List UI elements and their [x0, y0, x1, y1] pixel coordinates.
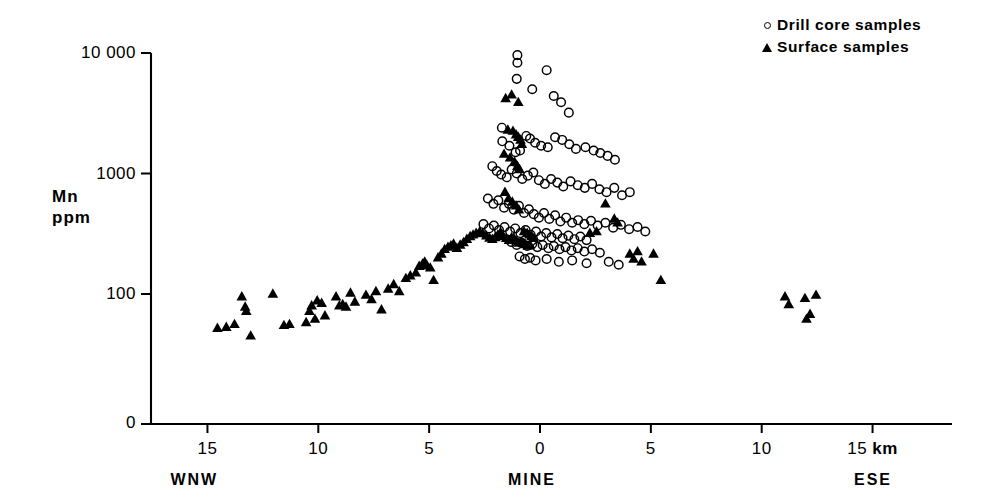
- open-circle-icon: [757, 22, 777, 29]
- data-point-surface-sample: [600, 198, 611, 207]
- y-tick-label-10000: 10 000: [0, 44, 136, 61]
- data-point-drill-core: [484, 194, 493, 203]
- y-axis-label: Mn ppm: [52, 186, 91, 229]
- data-point-surface-sample: [376, 304, 387, 313]
- direction-label-ese: ESE: [854, 471, 892, 489]
- x-tick-label-1: 10: [278, 440, 358, 457]
- data-point-drill-core: [601, 218, 610, 227]
- data-point-drill-core: [625, 225, 634, 234]
- direction-label-mine: MINE: [508, 471, 556, 489]
- data-point-drill-core: [568, 256, 577, 265]
- data-point-drill-core: [614, 260, 623, 269]
- data-point-surface-sample: [371, 286, 382, 295]
- data-point-surface-sample: [428, 275, 439, 284]
- x-tick-label-6: 15 km: [833, 440, 913, 457]
- figure-container: Mn ppm Drill core samples Surface sample…: [0, 0, 985, 500]
- y-axis-ticks: [141, 53, 151, 424]
- data-point-surface-sample: [229, 319, 240, 328]
- x-tick-label-4: 5: [611, 440, 691, 457]
- data-point-drill-core: [557, 98, 566, 107]
- scatter-plot-canvas: [0, 0, 985, 500]
- data-point-drill-core: [549, 92, 558, 101]
- y-tick-label-1000: 1000: [0, 165, 136, 182]
- data-point-surface-sample: [221, 322, 232, 331]
- data-point-drill-core: [565, 108, 574, 117]
- data-point-surface-sample: [245, 330, 256, 339]
- data-point-surface-sample: [632, 246, 643, 255]
- data-point-surface-sample: [636, 256, 647, 265]
- data-point-surface-sample: [805, 309, 816, 318]
- data-point-drill-core: [542, 66, 551, 75]
- legend-item-drill-core: Drill core samples: [757, 14, 977, 36]
- x-tick-label-5: 10: [722, 440, 802, 457]
- data-point-drill-core: [528, 85, 537, 94]
- data-point-surface-sample: [331, 291, 342, 300]
- y-axis-label-line1: Mn: [52, 186, 91, 207]
- data-point-surface-sample: [237, 291, 248, 300]
- data-point-drill-core: [625, 188, 634, 197]
- data-point-drill-core: [604, 258, 613, 267]
- legend-item-surface: Surface samples: [757, 36, 977, 58]
- axis-lines: [151, 53, 952, 424]
- legend-label-drill-core: Drill core samples: [777, 17, 921, 33]
- x-axis-ticks: [207, 424, 872, 433]
- data-point-surface-sample: [301, 317, 312, 326]
- data-point-surface-sample: [388, 279, 399, 288]
- filled-triangle-icon: [757, 43, 777, 52]
- data-point-surface-sample: [648, 248, 659, 257]
- data-point-drill-core: [596, 248, 605, 257]
- legend: Drill core samples Surface samples: [757, 14, 977, 58]
- x-tick-label-0: 15: [167, 440, 247, 457]
- data-point-surface-sample: [811, 289, 822, 298]
- data-point-drill-core: [512, 75, 521, 84]
- data-point-surface-sample: [268, 288, 279, 297]
- x-tick-label-3: 0: [500, 440, 580, 457]
- legend-label-surface: Surface samples: [777, 39, 909, 55]
- data-point-drill-core: [610, 184, 619, 193]
- data-point-drill-core: [611, 155, 620, 164]
- data-point-surface-sample: [212, 323, 223, 332]
- y-axis-label-line2: ppm: [52, 207, 91, 228]
- data-point-surface-sample: [350, 296, 361, 305]
- data-point-drill-core: [641, 227, 650, 236]
- y-tick-label-0: 0: [0, 414, 136, 431]
- y-tick-label-100: 100: [0, 285, 136, 302]
- data-point-surface-sample: [656, 275, 667, 284]
- data-point-drill-core: [572, 145, 581, 154]
- data-point-drill-core: [542, 255, 551, 264]
- x-tick-label-2: 5: [389, 440, 469, 457]
- data-point-surface-sample: [506, 89, 517, 98]
- data-point-drill-core: [582, 259, 591, 268]
- data-point-surface-sample: [320, 310, 331, 319]
- data-point-drill-core: [515, 252, 524, 261]
- data-point-surface-sample: [345, 287, 356, 296]
- data-point-surface-sample: [800, 293, 811, 302]
- x-axis-unit-km: km: [872, 439, 898, 458]
- direction-label-wnw: WNW: [170, 471, 218, 489]
- data-point-drill-core: [581, 143, 590, 152]
- series-surface-samples: [212, 89, 821, 339]
- data-point-drill-core: [555, 258, 564, 267]
